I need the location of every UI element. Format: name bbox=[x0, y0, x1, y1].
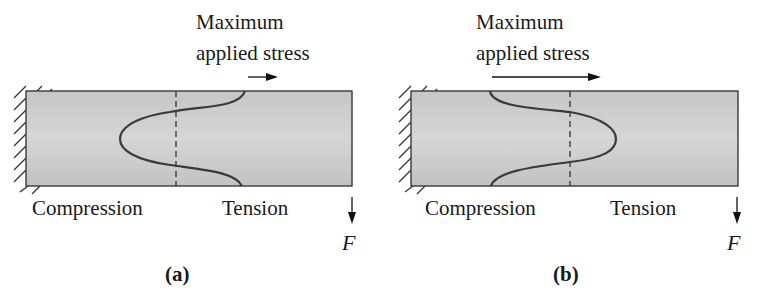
compression-label: Compression bbox=[425, 198, 536, 219]
max-stress-title-line2: applied stress bbox=[196, 43, 310, 64]
force-arrow-icon bbox=[348, 197, 356, 224]
max-stress-title-line1: Maximum bbox=[196, 12, 284, 33]
tension-label: Tension bbox=[610, 198, 676, 219]
tension-label: Tension bbox=[222, 198, 288, 219]
beam bbox=[411, 91, 738, 186]
max-stress-title-line2: applied stress bbox=[476, 43, 590, 64]
force-label: F bbox=[727, 232, 740, 254]
panel-caption: (b) bbox=[553, 264, 579, 285]
figure-canvas bbox=[0, 0, 759, 305]
stress-direction-arrow-icon bbox=[492, 73, 601, 81]
compression-label: Compression bbox=[32, 198, 143, 219]
beam bbox=[26, 91, 352, 186]
stress-direction-arrow-icon bbox=[248, 73, 278, 81]
panel-caption: (a) bbox=[165, 264, 190, 285]
force-arrow-icon bbox=[733, 197, 741, 224]
max-stress-title-line1: Maximum bbox=[476, 12, 564, 33]
force-label: F bbox=[342, 232, 355, 254]
